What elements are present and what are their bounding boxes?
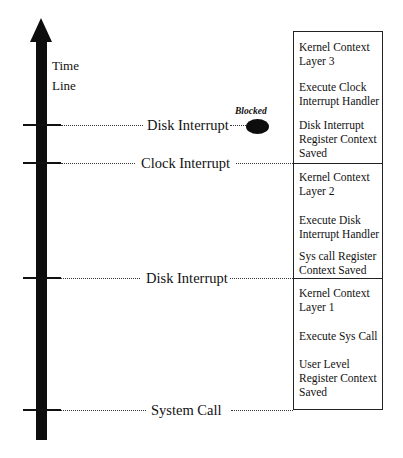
dotted-leader [230, 278, 293, 279]
event-clock-interrupt: Clock Interrupt [141, 155, 230, 171]
timeline-label-line: Line [52, 78, 76, 94]
timeline-arrow-shaft [36, 38, 47, 440]
layer1-saved-context: User Level Register Context Saved [299, 357, 383, 399]
dotted-leader [61, 410, 146, 411]
blocked-process-icon [246, 119, 269, 134]
dotted-leader [230, 125, 246, 126]
layer3-action: Execute Clock Interrupt Handler [299, 80, 383, 108]
layer1-title: Kernel Context Layer 1 [299, 286, 383, 314]
event-system-call: System Call [151, 402, 222, 418]
layer2-saved-context: Sys call Register Context Saved [299, 249, 383, 277]
layer2-action: Execute Disk Interrupt Handler [299, 213, 383, 241]
tick-disk-interrupt-2 [23, 124, 61, 126]
dotted-leader [61, 125, 143, 126]
event-disk-interrupt-2: Disk Interrupt [147, 117, 229, 133]
layer3-saved-context: Disk Interrupt Register Context Saved [299, 118, 383, 160]
blocked-label: Blocked [235, 106, 267, 116]
dotted-leader [231, 410, 293, 411]
dotted-leader [61, 163, 135, 164]
tick-clock-interrupt [23, 162, 61, 164]
layer1-action: Execute Sys Call [299, 329, 383, 343]
tick-system-call [23, 409, 61, 411]
layer-divider [293, 278, 383, 279]
layer3-title: Kernel Context Layer 3 [299, 40, 383, 68]
dotted-leader [61, 278, 140, 279]
timeline-label-time: Time [52, 58, 79, 74]
event-disk-interrupt-1: Disk Interrupt [146, 270, 228, 286]
layer-divider [293, 163, 383, 164]
tick-disk-interrupt-1 [23, 277, 61, 279]
dotted-leader [236, 163, 293, 164]
layer2-title: Kernel Context Layer 2 [299, 170, 383, 198]
